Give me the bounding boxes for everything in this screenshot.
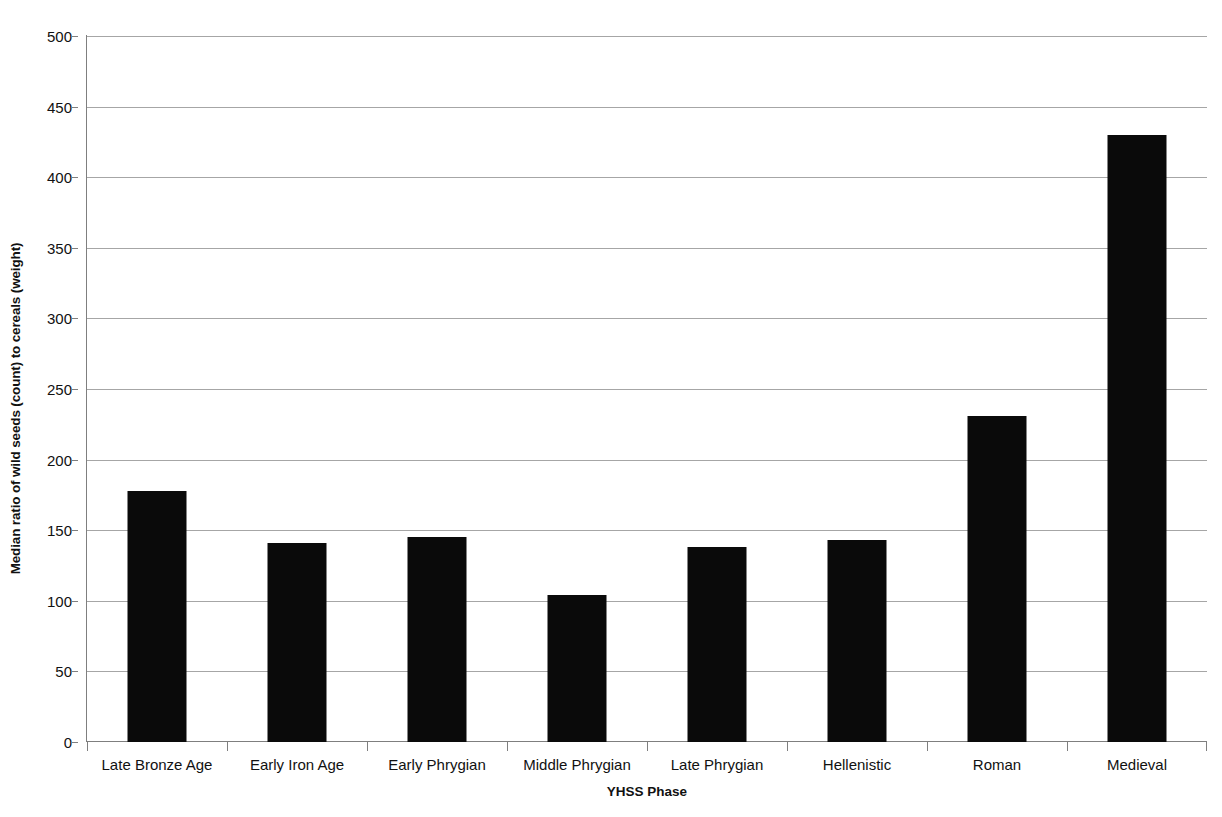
x-axis-tick-mark	[367, 742, 368, 751]
y-axis-tick-mark	[72, 36, 78, 37]
bar-slot	[787, 36, 927, 742]
x-axis-tick-mark	[787, 742, 788, 751]
x-axis-tick-label: Late Bronze Age	[87, 757, 227, 772]
bar[interactable]	[1108, 135, 1167, 742]
y-axis-tick-label: 350	[12, 241, 72, 256]
x-axis-tick-label: Middle Phrygian	[507, 757, 647, 772]
y-axis-tick-label: 250	[12, 382, 72, 397]
y-axis-tick-mark	[72, 671, 78, 672]
bar[interactable]	[128, 491, 187, 742]
x-axis-tick-mark	[927, 742, 928, 751]
bar-slot	[87, 36, 227, 742]
x-axis-tick-label: Hellenistic	[787, 757, 927, 772]
y-axis-tick-mark	[72, 601, 78, 602]
y-axis-tick-mark	[72, 742, 78, 743]
x-axis-tick-mark	[507, 742, 508, 751]
y-axis-tick-labels: 050100150200250300350400450500	[9, 36, 72, 742]
y-axis-tick-mark	[72, 248, 78, 249]
bar[interactable]	[968, 416, 1027, 742]
y-axis-tick-mark	[72, 530, 78, 531]
bar[interactable]	[688, 547, 747, 742]
x-axis-title: YHSS Phase	[87, 784, 1207, 799]
y-axis-tick-label: 0	[12, 735, 72, 750]
bar-slot	[927, 36, 1067, 742]
bar-chart: Median ratio of wild seeds (count) to ce…	[0, 0, 1222, 817]
bar-slot	[647, 36, 787, 742]
x-axis-tick-mark	[647, 742, 648, 751]
y-axis-tick-label: 450	[12, 100, 72, 115]
bar[interactable]	[408, 537, 467, 742]
bar-slot	[507, 36, 647, 742]
y-axis-tick-label: 100	[12, 594, 72, 609]
y-axis-tick-mark	[72, 460, 78, 461]
y-axis-tick-label: 400	[12, 170, 72, 185]
bar[interactable]	[828, 540, 887, 742]
bar-slot	[227, 36, 367, 742]
x-axis-tick-mark	[1206, 742, 1207, 751]
x-axis-tick-labels: Late Bronze AgeEarly Iron AgeEarly Phryg…	[87, 757, 1207, 781]
y-axis-tick-label: 500	[12, 29, 72, 44]
x-axis-tick-label: Early Iron Age	[227, 757, 367, 772]
y-axis-tick-label: 50	[12, 664, 72, 679]
x-axis-tick-label: Medieval	[1067, 757, 1207, 772]
bar[interactable]	[548, 595, 607, 742]
x-axis-tick-label: Late Phrygian	[647, 757, 787, 772]
y-axis-tick-mark	[72, 177, 78, 178]
y-axis-tick-label: 200	[12, 453, 72, 468]
x-axis-tick-mark	[1067, 742, 1068, 751]
plot-area	[87, 36, 1207, 742]
y-axis-tick-label: 300	[12, 311, 72, 326]
bar-slot	[1067, 36, 1207, 742]
bar[interactable]	[268, 543, 327, 742]
y-axis-tick-mark	[72, 318, 78, 319]
x-axis-tick-mark	[227, 742, 228, 751]
bar-slot	[367, 36, 507, 742]
y-axis-tick-label: 150	[12, 523, 72, 538]
x-axis-tick-label: Roman	[927, 757, 1067, 772]
y-axis-tick-mark	[72, 107, 78, 108]
y-axis-tick-mark	[72, 389, 78, 390]
bars-layer	[87, 36, 1207, 742]
x-axis-tick-mark	[87, 742, 88, 751]
x-axis-tick-label: Early Phrygian	[367, 757, 507, 772]
